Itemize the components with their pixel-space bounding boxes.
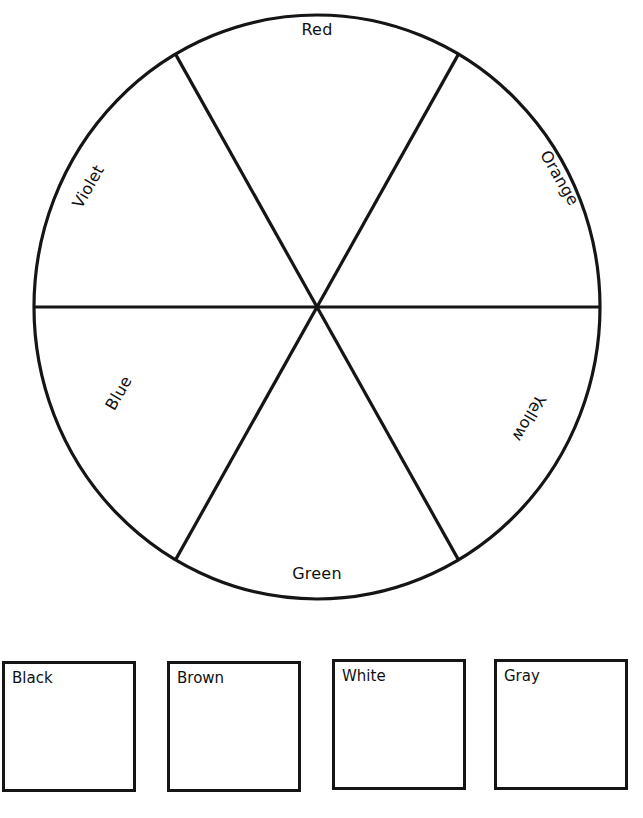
- swatch-box-gray[interactable]: Gray: [494, 659, 628, 790]
- swatch-box-black[interactable]: Black: [2, 661, 136, 792]
- color-wheel-svg: [0, 0, 643, 620]
- color-wheel: Red Orange Yellow Green Blue Violet: [0, 0, 643, 620]
- swatch-box-brown[interactable]: Brown: [167, 661, 301, 792]
- wheel-sector-label-red: Red: [302, 22, 333, 38]
- swatch-label-black: Black: [12, 670, 53, 687]
- swatch-label-brown: Brown: [177, 670, 224, 687]
- swatch-label-white: White: [342, 668, 386, 685]
- swatch-box-white[interactable]: White: [332, 659, 466, 790]
- swatch-label-gray: Gray: [504, 668, 540, 685]
- wheel-sector-label-green: Green: [292, 566, 341, 582]
